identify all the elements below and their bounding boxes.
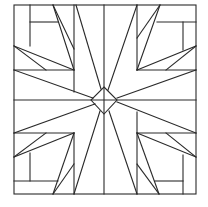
star-point <box>137 164 159 194</box>
star-ray <box>14 104 95 133</box>
star-ray <box>108 5 137 90</box>
quadrant-bottom-left <box>14 104 100 194</box>
star-point <box>53 5 74 49</box>
quadrant-top-right <box>108 5 196 98</box>
star-ray <box>74 111 100 194</box>
star-ray <box>117 102 196 133</box>
star-point <box>53 133 74 194</box>
star-point <box>53 5 74 70</box>
star-point <box>137 133 196 157</box>
star-ray <box>117 70 196 98</box>
star-point <box>14 46 74 70</box>
star-point <box>137 46 196 70</box>
star-ray <box>109 111 137 194</box>
star-point <box>137 133 159 194</box>
star-point <box>137 5 160 70</box>
star-point <box>166 46 196 70</box>
quadrant-top-left <box>14 5 101 98</box>
star-point <box>166 133 196 157</box>
quadrant-bottom-right <box>109 102 196 194</box>
star-ray <box>14 70 93 98</box>
star-point <box>14 46 46 70</box>
quilt-block <box>14 5 196 194</box>
star-point <box>53 164 74 194</box>
quilt-block-diagram <box>0 0 208 207</box>
star-point <box>14 133 74 157</box>
star-ray <box>76 5 101 89</box>
